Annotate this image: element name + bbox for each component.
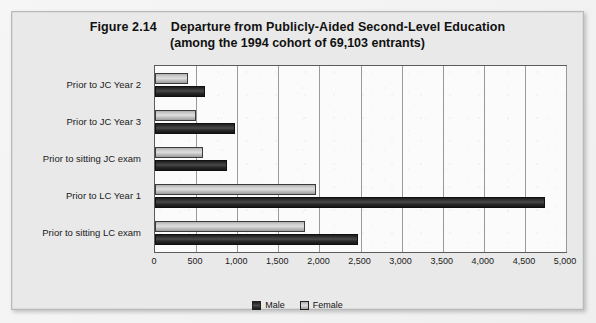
bar-female [155,147,203,158]
figure-title-block: Figure 2.14Departure from Publicly-Aided… [12,20,583,50]
x-tick-label: 3,500 [430,256,453,266]
bar-female [155,184,316,195]
bar-group [155,66,566,103]
bar-male [155,160,227,171]
category-label: Prior to JC Year 2 [67,78,141,89]
bar-group [155,140,566,177]
bar-male [155,86,205,97]
legend-swatch-icon [252,301,261,310]
category-label: Prior to sitting LC exam [42,227,141,238]
category-label: Prior to LC Year 1 [66,190,141,201]
figure-title-line-1: Figure 2.14Departure from Publicly-Aided… [12,20,583,34]
gridline [566,66,567,252]
x-tick-label: 1,500 [266,256,289,266]
bar-female [155,221,305,232]
category-label: Prior to sitting JC exam [43,153,141,164]
legend-entry-male: Male [252,300,285,310]
legend-swatch-icon [300,301,309,310]
bar-female [155,110,196,121]
figure-title-main: Departure from Publicly-Aided Second-Lev… [171,20,505,34]
x-axis-tick-labels: 05001,0001,5002,0002,5003,0003,5004,0004… [154,256,567,270]
bar-male [155,197,545,208]
category-axis-labels: Prior to JC Year 2Prior to JC Year 3Prio… [12,65,148,253]
chart-legend: MaleFemale [12,300,583,310]
x-tick-label: 2,000 [307,256,330,266]
legend-label: Male [265,300,285,310]
x-tick-label: 2,500 [348,256,371,266]
bar-male [155,123,235,134]
bar-male [155,234,358,245]
x-tick-label: 500 [188,256,203,266]
bar-group [155,215,566,252]
plot-area [154,65,567,253]
bar-female [155,73,188,84]
figure-number: Figure 2.14 [90,20,157,34]
x-tick-label: 3,000 [389,256,412,266]
figure-container: Figure 2.14Departure from Publicly-Aided… [0,0,596,323]
bars-layer [155,66,566,252]
figure-panel: Figure 2.14Departure from Publicly-Aided… [11,11,584,310]
bar-group [155,178,566,215]
x-tick-label: 1,000 [225,256,248,266]
legend-entry-female: Female [300,300,343,310]
bar-group [155,103,566,140]
x-tick-label: 0 [151,256,156,266]
x-tick-label: 4,500 [513,256,536,266]
figure-subtitle: (among the 1994 cohort of 69,103 entrant… [12,36,583,50]
legend-label: Female [313,300,343,310]
x-tick-label: 5,000 [554,256,577,266]
category-label: Prior to JC Year 3 [67,115,141,126]
x-tick-label: 4,000 [472,256,495,266]
